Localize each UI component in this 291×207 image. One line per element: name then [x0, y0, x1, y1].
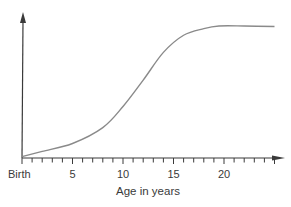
x-tick-label: 10	[117, 168, 129, 180]
growth-curve	[22, 26, 275, 157]
y-axis-line	[22, 20, 23, 158]
x-axis-ticks	[22, 158, 275, 164]
y-axis-arrow-icon	[20, 12, 26, 23]
axes	[20, 12, 285, 161]
x-axis-tick-labels: Birth5101520	[8, 168, 230, 180]
chart: Birth5101520 Age in years	[0, 0, 291, 207]
x-tick-label: 20	[218, 168, 230, 180]
x-tick-label: 15	[167, 168, 179, 180]
x-axis-title: Age in years	[116, 185, 180, 197]
x-tick-label: Birth	[8, 168, 31, 180]
x-tick-label: 5	[69, 168, 75, 180]
x-axis-arrow-icon	[272, 156, 285, 161]
